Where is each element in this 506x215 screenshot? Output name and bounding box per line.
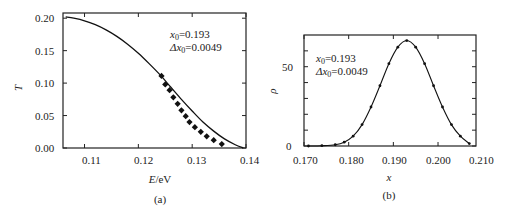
data-point [186, 119, 192, 125]
data-point [204, 133, 210, 139]
y-axis-label-b: ρ [266, 88, 278, 94]
data-point [370, 106, 373, 109]
data-point [343, 141, 346, 144]
caption-b: (b) [383, 189, 396, 202]
x-tick-label-a-0.13: 0.13 [187, 154, 207, 166]
x-tick-label-a-0.12: 0.12 [134, 154, 153, 166]
annotation-x0-a: x0=0.193 [169, 28, 210, 42]
x-tick-label-a-0.14: 0.14 [240, 154, 260, 166]
y-tick-label-a: 0.00 [35, 142, 55, 154]
plot-frame-a [63, 13, 246, 148]
y-tick-label-a: 0.05 [35, 110, 55, 122]
x-tick-label-b-0.210: 0.210 [469, 154, 494, 166]
data-point [361, 123, 364, 126]
y-tick-label-b-50: 50 [282, 61, 294, 73]
data-point [178, 107, 184, 113]
data-point [192, 124, 198, 130]
data-point [459, 135, 462, 138]
data-point [396, 46, 399, 49]
annotation-dx0-a: Δx0=0.0049 [169, 41, 222, 55]
x-tick-label-b-0.190: 0.190 [382, 154, 407, 166]
x-tick-label-b-0.170: 0.170 [293, 154, 318, 166]
data-point [432, 84, 435, 87]
data-point [320, 144, 323, 147]
data-point [162, 81, 168, 87]
y-ticks-a: 0.000.050.100.150.20 [35, 12, 246, 154]
data-point [379, 84, 382, 87]
figure: 0.000.050.100.150.20 0.11 0.12 0.13 0.14… [0, 0, 506, 215]
y-tick-label-b-0: 0 [286, 140, 292, 152]
data-point [441, 106, 444, 109]
data-point [170, 94, 176, 100]
x-axis-label-b: x [386, 171, 392, 183]
panel-a: 0.000.050.100.150.20 0.11 0.12 0.13 0.14… [12, 12, 260, 206]
data-point [307, 145, 310, 148]
data-point [334, 143, 337, 146]
x-tick-label-a-0.11: 0.11 [82, 154, 101, 166]
x-axis-label-a: E/eV [148, 173, 172, 185]
data-point [198, 129, 204, 135]
data-point [219, 141, 225, 147]
panel-b: 0 50 0.170 0.180 0.190 0.200 0.210 x0=0.… [266, 35, 494, 202]
x-tick-label-b-0.180: 0.180 [339, 154, 364, 166]
data-point [387, 62, 390, 65]
annotation-dx0-b: Δx0=0.0049 [315, 65, 368, 79]
data-point [468, 142, 471, 145]
data-point [450, 123, 453, 126]
x-tick-label-b-0.200: 0.200 [426, 154, 451, 166]
data-point [423, 62, 426, 65]
annotation-x0-b: x0=0.193 [315, 52, 356, 66]
data-point [211, 137, 217, 143]
data-point [414, 46, 417, 49]
data-point [405, 39, 408, 42]
fit-curve-a [66, 17, 244, 148]
data-point [352, 135, 355, 138]
y-tick-label-a: 0.15 [35, 45, 55, 57]
y-axis-label-a: T [12, 84, 24, 91]
y-tick-label-a: 0.20 [35, 12, 55, 24]
y-tick-label-a: 0.10 [35, 77, 55, 89]
data-point [175, 101, 181, 107]
data-point [183, 113, 189, 119]
caption-a: (a) [154, 193, 167, 206]
y-ticks-b [304, 51, 476, 146]
